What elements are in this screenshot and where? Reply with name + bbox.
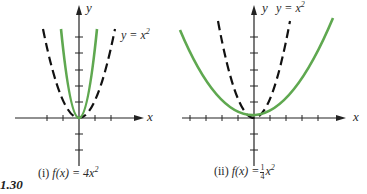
panel-i-y-axis-label: y <box>86 0 92 16</box>
y-axis-arrow-icon <box>251 5 257 15</box>
panel-ii-reference-label: y = x2 <box>276 0 305 16</box>
panel-i-x-axis-label: x <box>147 109 153 125</box>
reference-label-exponent: 2 <box>301 0 305 9</box>
panel-ii-caption: (ii) f(x) =14x2 <box>214 163 275 181</box>
reference-label-exponent: 2 <box>146 27 150 36</box>
panel-i-reference-label: y = x2 <box>121 27 150 43</box>
caption-fraction: 14 <box>260 164 264 181</box>
caption-function-lhs: f(x) = <box>232 164 260 178</box>
caption-prefix: (ii) <box>214 164 229 178</box>
panel-i-caption: (i) f(x) = 4x2 <box>38 165 98 181</box>
panel-ii-y-axis-label: y <box>262 0 268 16</box>
fraction-denominator: 4 <box>260 173 264 181</box>
panel-ii-x-axis-label: x <box>353 109 359 125</box>
caption-function: f(x) = 4x <box>52 166 94 180</box>
caption-prefix: (i) <box>38 166 49 180</box>
reference-label-text: y = x <box>121 28 146 42</box>
caption-exponent: 2 <box>94 165 98 174</box>
panel-ii-graph <box>180 5 346 166</box>
figure-number: 1.30 <box>0 177 23 193</box>
caption-exponent: 2 <box>271 163 275 172</box>
y-axis-arrow-icon <box>76 5 82 15</box>
reference-label-text: y = x <box>276 1 301 15</box>
x-axis-arrow-icon <box>336 115 346 121</box>
x-axis-arrow-icon <box>134 115 144 121</box>
transformed-curve-quarter-x-squared <box>180 18 333 115</box>
